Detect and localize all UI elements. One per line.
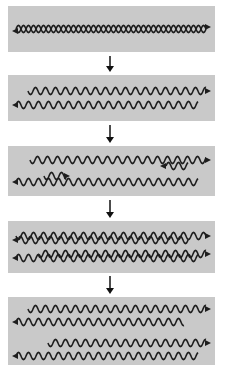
- stage-4-panel: [8, 221, 215, 273]
- down-arrow-icon: [106, 200, 114, 218]
- elongating-strands-icon: [8, 221, 215, 273]
- stage-2-panel: [8, 75, 215, 121]
- daughter-molecules-icon: [8, 297, 215, 365]
- primer-strands-icon: [8, 146, 215, 196]
- down-arrow-icon: [106, 56, 114, 72]
- stage-5-panel: [8, 297, 215, 365]
- separated-strands-icon: [8, 75, 215, 121]
- down-arrow-icon: [106, 125, 114, 143]
- double-helix-icon: [8, 6, 215, 52]
- stage-3-panel: [8, 146, 215, 196]
- down-arrow-icon: [106, 276, 114, 294]
- stage-1-panel: [8, 6, 215, 52]
